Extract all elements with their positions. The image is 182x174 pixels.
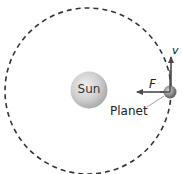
planet-pointer-line [147,96,164,107]
velocity-label: v [172,44,179,57]
planet-label: Planet [110,104,148,118]
sun-label: Sun [77,82,101,96]
force-label: F [149,77,156,91]
